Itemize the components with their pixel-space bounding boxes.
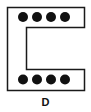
dot-icon [46,75,56,85]
dot-icon [60,12,70,22]
dot-icon [18,12,28,22]
dot-icon [32,12,42,22]
figure-label: D [0,96,91,108]
diagram-figure: D [0,0,91,112]
dot-icon [46,12,56,22]
dot-icon [18,75,28,85]
dot-icon [32,75,42,85]
dot-icon [60,75,70,85]
